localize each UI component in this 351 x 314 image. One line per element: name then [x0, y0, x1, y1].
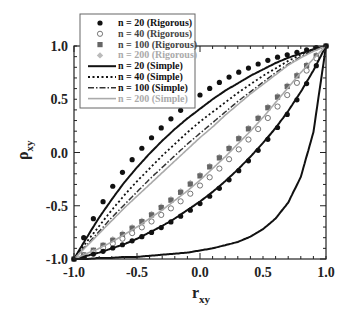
y-tick-label: 0.0: [51, 146, 69, 161]
chart: -1.0-0.50.00.51.0 -1.0-0.50.00.51.0 rxy …: [0, 0, 351, 314]
legend-label: n = 200 (Simple): [118, 93, 188, 105]
x-tick-label: 1.0: [317, 265, 335, 280]
legend: n = 20 (Rigorous)n = 40 (Rigorous)n = 10…: [80, 14, 197, 108]
y-axis-label: ρxy: [14, 140, 35, 160]
y-tick-label: -0.5: [46, 199, 68, 214]
x-tick-label: 0.5: [254, 265, 272, 280]
y-tick-label: -1.0: [46, 252, 68, 267]
x-tick-label: -1.0: [63, 265, 85, 280]
x-axis-label: rxy: [192, 284, 211, 305]
x-tick-label: -0.5: [126, 265, 148, 280]
y-tick-label: 1.0: [51, 39, 69, 54]
y-tick-labels: -1.0-0.50.00.51.0: [46, 39, 68, 267]
x-tick-label: 0.0: [191, 265, 209, 280]
x-tick-labels: -1.0-0.50.00.51.0: [63, 265, 335, 280]
y-tick-label: 0.5: [51, 92, 69, 107]
